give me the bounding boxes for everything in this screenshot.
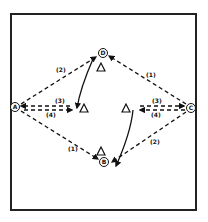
pass-label: (1) bbox=[68, 146, 78, 152]
pass-label: (2) bbox=[56, 67, 66, 73]
pass-label: (4) bbox=[46, 112, 56, 118]
cone-icon bbox=[122, 104, 130, 112]
drill-diagram: A B C D (2) (1) (3) (4) (3) (4) (1) (2) bbox=[0, 0, 208, 222]
pass-label: (3) bbox=[152, 98, 162, 104]
pass-label: (1) bbox=[146, 72, 156, 78]
pass-label: (2) bbox=[150, 139, 160, 145]
pass-c-to-d bbox=[109, 56, 186, 104]
run-d-to-left bbox=[77, 59, 93, 108]
cone-icon bbox=[80, 104, 88, 112]
cone-icon bbox=[97, 147, 105, 155]
player-d: D bbox=[98, 48, 108, 58]
pass-c-to-b bbox=[112, 112, 186, 162]
cone-icon bbox=[97, 63, 105, 71]
player-b: B bbox=[99, 157, 109, 167]
pass-label: (4) bbox=[151, 112, 161, 118]
player-a: A bbox=[10, 102, 20, 112]
pass-label: (3) bbox=[55, 98, 65, 104]
run-right-to-b bbox=[116, 110, 133, 166]
pass-lines bbox=[0, 0, 208, 222]
pass-a-to-b bbox=[21, 111, 98, 159]
player-c: C bbox=[186, 103, 196, 113]
